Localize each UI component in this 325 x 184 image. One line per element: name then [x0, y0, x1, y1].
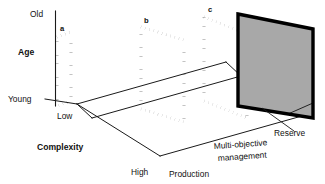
label-complexity: Complexity: [37, 142, 84, 152]
label-multiobjective-line1: Multi-objective: [213, 137, 267, 151]
reserve-panel: [238, 14, 313, 118]
diagram-canvas: Old Age Young Low Complexity High Produc…: [0, 0, 325, 184]
base-plane-back-edge: [77, 62, 226, 104]
label-old: Old: [30, 9, 43, 19]
panel-b-outline: [141, 27, 184, 122]
label-panel-a: a: [60, 24, 65, 33]
panel-b: [141, 27, 184, 122]
base-plane-left-edge: [77, 104, 160, 156]
diagram-svg: Old Age Young Low Complexity High Produc…: [0, 0, 325, 184]
label-low: Low: [57, 111, 73, 121]
label-multiobjective-line2: management: [217, 150, 267, 163]
label-reserve: Reserve: [274, 128, 306, 138]
base-plane-inner-edge: [92, 76, 241, 118]
panel-a: [57, 32, 71, 106]
young-tick-line: [45, 99, 77, 104]
label-panel-b: b: [144, 16, 149, 25]
label-young: Young: [8, 94, 32, 104]
panel-a-outline: [57, 32, 71, 106]
reserve-panel-fill: [238, 14, 313, 118]
label-panel-c: c: [208, 5, 212, 14]
label-age: Age: [18, 47, 34, 57]
base-plane-origin-connector: [77, 104, 92, 118]
label-high: High: [131, 167, 149, 177]
label-production: Production: [169, 169, 209, 179]
